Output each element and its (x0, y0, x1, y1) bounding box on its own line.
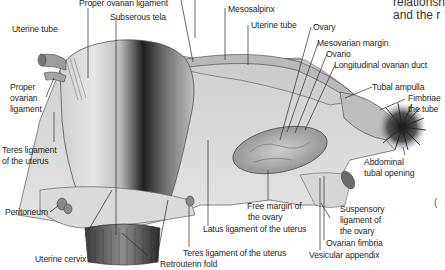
label-vesicular-appendix: Vesicular appendix (309, 250, 379, 260)
side-fragment: ( (434, 196, 437, 209)
cervix-shape (85, 224, 160, 265)
label-uterine-tube-left: Uterine tube (12, 24, 58, 34)
uterus-body-shape (60, 40, 194, 200)
label-proper-ovarian-ligament-top: Proper ovarian ligament (79, 0, 168, 8)
label-fimbriae: Fimbriae the tube (408, 93, 441, 115)
label-abdominal-tubal-opening: Abdominal tubal opening (364, 157, 414, 179)
label-teres-ligament-bottom: Teres ligament of the uterus (183, 248, 286, 258)
label-suspensory-ligament: Suspensory ligament of the ovary (340, 204, 384, 237)
caption-fragment-2: and the r (393, 9, 440, 22)
label-ovarian-fimbria: Ovarian fimbria (326, 238, 383, 248)
label-ovario: Ovario (326, 49, 351, 59)
label-teres-ligament-left: Teres ligament of the uterus (2, 145, 56, 167)
label-free-margin-of-ovary: Free margin of the ovary (247, 201, 301, 223)
label-mesosalpinx: Mesosalpinx (228, 4, 275, 14)
label-longitudinal-ovarian-duct: Longitudinal ovarian duct (334, 60, 427, 70)
label-retrouterin-fold: Retrouterin fold (160, 259, 217, 269)
label-latus-ligament: Latus ligament of the uterus (203, 224, 306, 234)
label-subserous-tela: Subserous tela (110, 12, 166, 22)
label-tubal-ampulla: Tubal ampulla (372, 82, 424, 92)
label-ovary: Ovary (313, 22, 335, 32)
label-uterine-tube-top: Uterine tube (251, 20, 297, 30)
label-peritoneum: Peritoneum (5, 207, 48, 217)
label-uterine-cervix: Uterine cervix (35, 254, 86, 264)
label-proper-ovarian-ligament-left: Proper ovarian ligament (10, 82, 42, 115)
label-mesovarian-margin: Mesovarian margin (317, 38, 388, 48)
